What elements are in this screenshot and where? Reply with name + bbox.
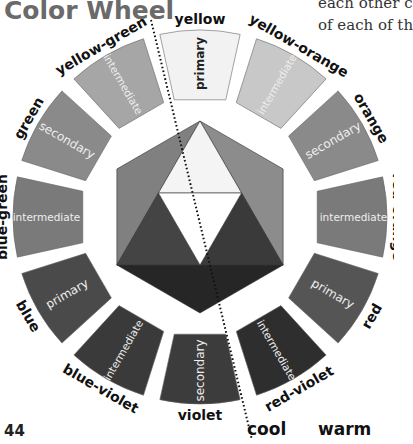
segment-type-label: secondary	[193, 339, 207, 401]
segment-type-label: primary	[193, 37, 207, 90]
warm-label: warm	[318, 419, 371, 439]
cool-label: cool	[247, 419, 286, 439]
page-number: 44	[4, 422, 25, 440]
color-name-label: blue-green	[0, 174, 10, 260]
color-name-label: yellow	[175, 11, 226, 27]
color-name-label: violet	[178, 407, 223, 423]
wheel-center	[88, 105, 312, 329]
segment-type-label: intermediate	[320, 211, 388, 223]
color-name-label: red-orange	[390, 173, 394, 261]
segment-type-label: intermediate	[13, 211, 81, 223]
